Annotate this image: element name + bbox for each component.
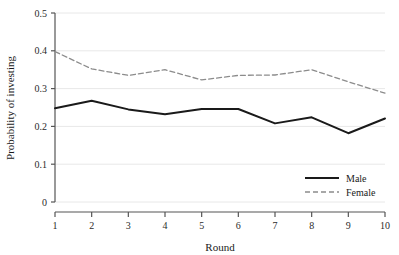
- y-axis-ticks: 00.10.20.30.40.5: [35, 8, 56, 208]
- y-tick-label: 0.3: [35, 83, 48, 94]
- y-tick-label: 0: [42, 197, 47, 208]
- legend: MaleFemale: [305, 173, 376, 198]
- data-series: [55, 52, 385, 134]
- x-tick-label: 2: [89, 220, 94, 231]
- x-tick-label: 7: [273, 220, 278, 231]
- y-tick-label: 0.4: [35, 45, 48, 56]
- x-axis-title: Round: [205, 241, 235, 253]
- x-tick-label: 4: [163, 220, 168, 231]
- x-axis-ticks: 12345678910: [53, 212, 391, 231]
- y-tick-label: 0.2: [35, 121, 48, 132]
- plot-frame: [55, 13, 385, 212]
- x-tick-label: 3: [126, 220, 131, 231]
- legend-label-female: Female: [346, 187, 376, 198]
- grid-lines: [55, 13, 385, 202]
- x-tick-label: 6: [236, 220, 241, 231]
- x-tick-label: 10: [380, 220, 390, 231]
- chart-figure: 00.10.20.30.40.5 12345678910 MaleFemale …: [0, 0, 399, 255]
- line-chart: 00.10.20.30.40.5 12345678910 MaleFemale …: [0, 0, 399, 255]
- x-tick-label: 1: [53, 220, 58, 231]
- y-tick-label: 0.5: [35, 8, 48, 19]
- series-line-female: [55, 52, 385, 94]
- x-tick-label: 8: [309, 220, 314, 231]
- y-tick-label: 0.1: [35, 159, 48, 170]
- legend-label-male: Male: [346, 173, 367, 184]
- x-tick-label: 9: [346, 220, 351, 231]
- x-tick-label: 5: [199, 220, 204, 231]
- y-axis-title: Probability of investing: [4, 56, 16, 160]
- series-line-male: [55, 101, 385, 134]
